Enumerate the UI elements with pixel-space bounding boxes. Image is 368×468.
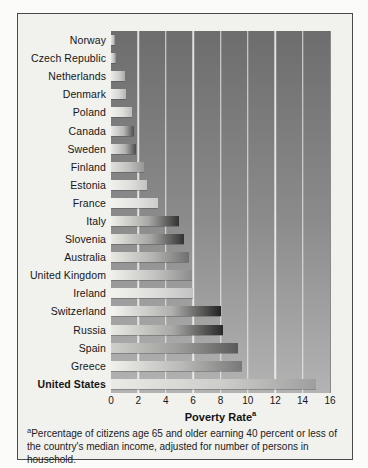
bar-track	[111, 270, 330, 280]
country-label: Norway	[18, 34, 111, 46]
chart-row: Switzerland	[18, 302, 330, 320]
x-tick-label: 16	[324, 395, 335, 406]
bar-track	[111, 107, 330, 117]
bar-track	[111, 288, 330, 298]
country-label: Sweden	[18, 143, 111, 155]
chart-row: Canada	[18, 121, 330, 139]
bar-rows: NorwayCzech RepublicNetherlandsDenmarkPo…	[18, 31, 330, 393]
x-axis-label-superscript: a	[252, 409, 256, 418]
chart-row: Netherlands	[18, 67, 330, 85]
chart-row: Spain	[18, 339, 330, 357]
country-label: United Kingdom	[18, 269, 111, 281]
poverty-rate-bar	[111, 35, 115, 45]
chart-row: Greece	[18, 357, 330, 375]
country-label: Slovenia	[18, 233, 111, 245]
page: { "figure": { "xlabel": "Poverty Rate", …	[0, 0, 368, 468]
country-label: Russia	[18, 324, 111, 336]
bar-track	[111, 162, 330, 172]
chart-row: Slovenia	[18, 230, 330, 248]
poverty-rate-bar	[111, 53, 116, 63]
chart-row: Italy	[18, 212, 330, 230]
bar-track	[111, 361, 330, 371]
chart-row: Norway	[18, 31, 330, 49]
bar-track	[111, 216, 330, 226]
chart-row: Ireland	[18, 284, 330, 302]
bar-track	[111, 343, 330, 353]
bar-track	[111, 144, 330, 154]
country-label: Finland	[18, 161, 111, 173]
country-label: Australia	[18, 251, 111, 263]
country-label: France	[18, 197, 111, 209]
country-label: Italy	[18, 215, 111, 227]
chart-row: Australia	[18, 248, 330, 266]
chart-row: United States	[18, 375, 330, 393]
x-tick-label: 12	[270, 395, 281, 406]
poverty-rate-bar	[111, 379, 316, 389]
country-label: Spain	[18, 342, 111, 354]
x-tick-label: 4	[163, 395, 169, 406]
bar-track	[111, 234, 330, 244]
bar-track	[111, 252, 330, 262]
figure-panel: NorwayCzech RepublicNetherlandsDenmarkPo…	[17, 13, 353, 460]
country-label: Canada	[18, 125, 111, 137]
bar-track	[111, 71, 330, 81]
country-label: Netherlands	[18, 70, 111, 82]
poverty-rate-bar	[111, 252, 189, 262]
x-axis-label-text: Poverty Rate	[185, 411, 252, 423]
poverty-rate-bar	[111, 71, 125, 81]
poverty-rate-bar	[111, 180, 147, 190]
x-axis: 0246810121416	[111, 395, 330, 409]
chart-row: Sweden	[18, 140, 330, 158]
country-label: Poland	[18, 106, 111, 118]
poverty-rate-bar	[111, 306, 221, 316]
bar-track	[111, 379, 330, 389]
chart-row: Poland	[18, 103, 330, 121]
bar-track	[111, 35, 330, 45]
bar-track	[111, 180, 330, 190]
x-tick-label: 10	[242, 395, 253, 406]
poverty-rate-bar	[111, 126, 134, 136]
x-tick-label: 2	[136, 395, 142, 406]
chart-row: Denmark	[18, 85, 330, 103]
poverty-rate-bar	[111, 198, 158, 208]
bar-track	[111, 89, 330, 99]
poverty-rate-bar	[111, 361, 242, 371]
poverty-rate-bar	[111, 270, 192, 280]
poverty-rate-bar	[111, 234, 184, 244]
bar-track	[111, 198, 330, 208]
poverty-rate-bar	[111, 144, 136, 154]
poverty-rate-bar	[111, 325, 223, 335]
country-label: United States	[18, 378, 111, 390]
x-tick-label: 8	[218, 395, 224, 406]
country-label: Greece	[18, 360, 111, 372]
x-tick-label: 6	[190, 395, 196, 406]
chart-row: Estonia	[18, 176, 330, 194]
x-tick-label: 0	[108, 395, 114, 406]
x-tick-label: 14	[297, 395, 308, 406]
country-label: Estonia	[18, 179, 111, 191]
poverty-rate-bar	[111, 288, 193, 298]
footnote: aPercentage of citizens age 65 and older…	[27, 427, 345, 466]
chart-row: Russia	[18, 321, 330, 339]
poverty-rate-bar	[111, 162, 144, 172]
poverty-rate-bar	[111, 107, 132, 117]
country-label: Czech Republic	[18, 52, 111, 64]
bar-track	[111, 325, 330, 335]
chart-row: Finland	[18, 158, 330, 176]
footnote-text: Percentage of citizens age 65 and older …	[27, 428, 337, 465]
poverty-rate-bar	[111, 216, 179, 226]
country-label: Ireland	[18, 287, 111, 299]
bar-track	[111, 53, 330, 63]
chart-row: France	[18, 194, 330, 212]
country-label: Denmark	[18, 88, 111, 100]
bar-track	[111, 306, 330, 316]
chart-row: Czech Republic	[18, 49, 330, 67]
x-axis-label: Poverty Ratea	[111, 411, 330, 423]
chart-row: United Kingdom	[18, 266, 330, 284]
poverty-rate-bar	[111, 89, 126, 99]
bar-track	[111, 126, 330, 136]
poverty-rate-bar	[111, 343, 238, 353]
country-label: Switzerland	[18, 305, 111, 317]
